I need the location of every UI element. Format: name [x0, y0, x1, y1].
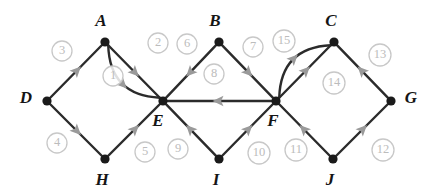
vertex-e	[158, 96, 167, 105]
edge-label-12: 12	[377, 142, 390, 156]
edge-label-11: 11	[290, 142, 302, 156]
vertex-label-e: E	[151, 111, 163, 130]
vertex-c	[329, 37, 338, 46]
vertex-label-b: B	[208, 11, 220, 30]
vertex-label-i: I	[212, 170, 221, 189]
edge-label-5: 5	[142, 144, 148, 158]
edge-label-7: 7	[250, 39, 256, 53]
vertex-f	[271, 96, 280, 105]
edge-label-4: 4	[54, 135, 61, 149]
edge-label-1: 1	[110, 68, 116, 82]
vertex-label-a: A	[94, 11, 106, 30]
vertex-label-d: D	[19, 88, 32, 107]
edge-label-8: 8	[211, 66, 217, 80]
vertex-label-j: J	[325, 170, 335, 189]
vertex-label-g: G	[405, 88, 418, 107]
vertex-j	[328, 154, 337, 163]
vertex-b	[214, 37, 223, 46]
edge-label-2: 2	[155, 35, 161, 49]
graph-diagram: ABCDEFGHIJ 123456789101112131415	[0, 0, 431, 195]
edge-label-6: 6	[184, 36, 190, 50]
vertex-a	[100, 37, 109, 46]
vertex-g	[386, 96, 395, 105]
edge-label-14: 14	[328, 75, 341, 89]
vertex-label-h: H	[94, 170, 109, 189]
edge-label-3: 3	[59, 43, 65, 57]
arrowheads-layer	[69, 51, 370, 139]
edge-label-15: 15	[278, 33, 291, 47]
vertex-label-f: F	[266, 111, 279, 130]
vertex-d	[42, 96, 51, 105]
edge-label-9: 9	[175, 141, 181, 155]
graph-canvas: ABCDEFGHIJ 123456789101112131415	[0, 0, 431, 195]
edge-label-13: 13	[374, 47, 387, 61]
edge-label-10: 10	[253, 145, 266, 159]
vertex-i	[214, 154, 223, 163]
vertex-h	[100, 154, 109, 163]
vertex-label-c: C	[325, 11, 337, 30]
